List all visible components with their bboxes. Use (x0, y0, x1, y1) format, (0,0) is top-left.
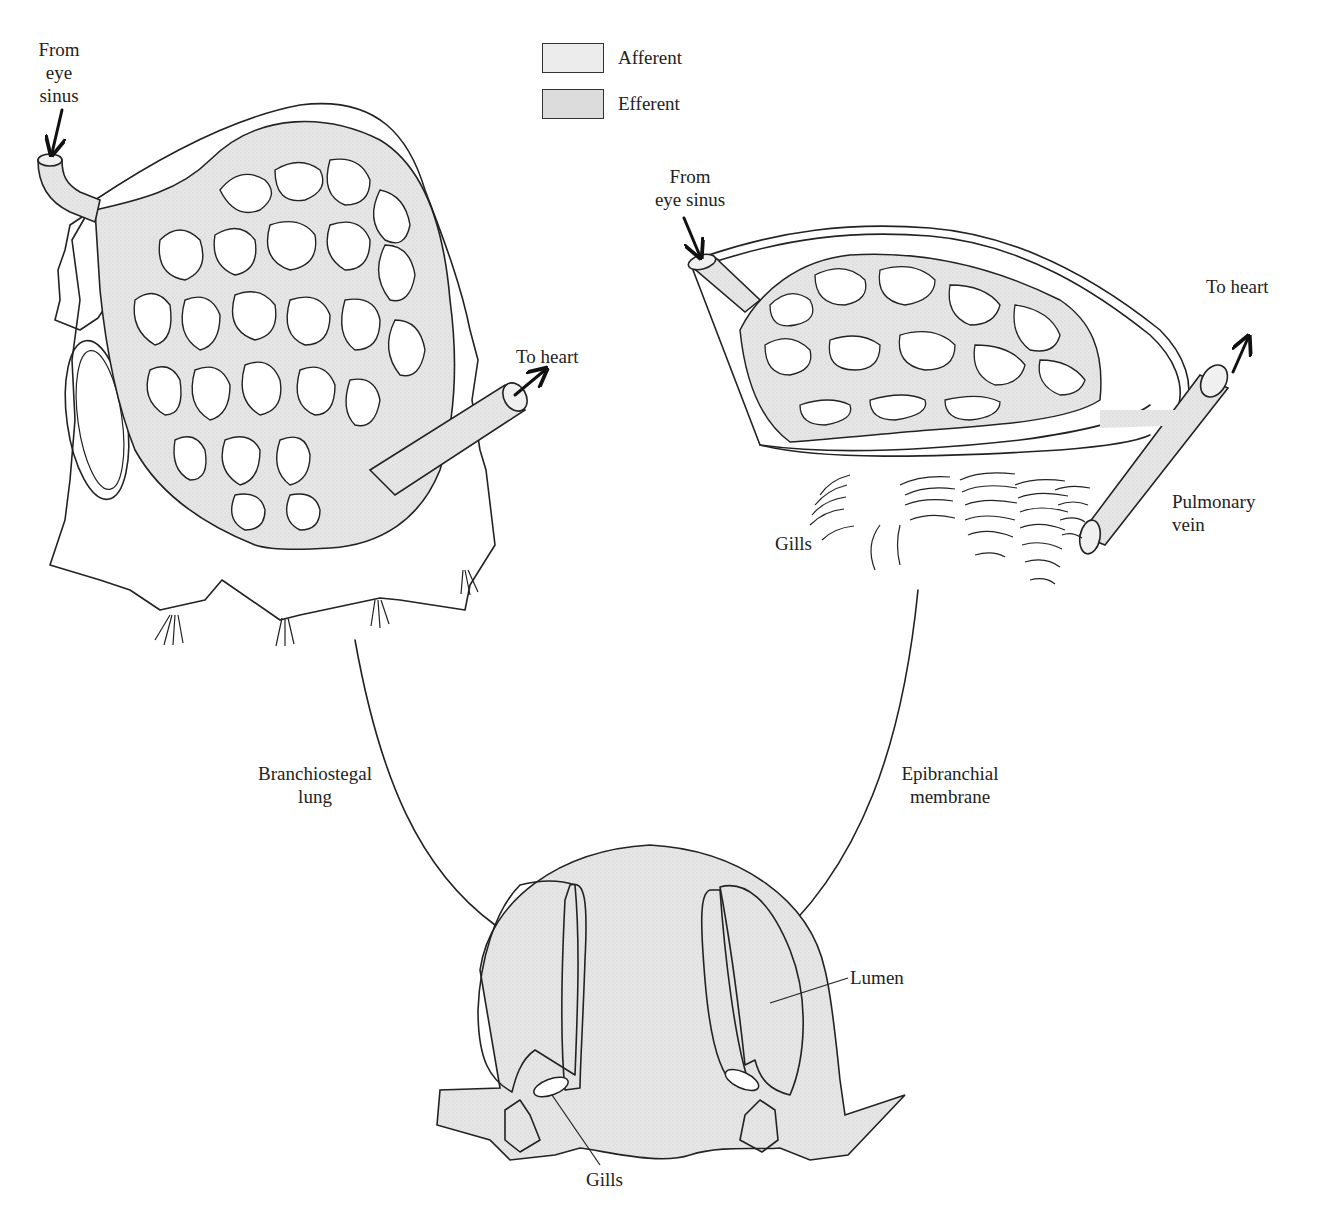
label-branchiostegal-lung: Branchiostegal lung (240, 762, 390, 808)
label-line: vein (1172, 513, 1255, 536)
legend-label-efferent: Efferent (618, 93, 680, 115)
label-pulmonary-vein: Pulmonary vein (1172, 490, 1255, 536)
label-from-eye-sinus-right: From eye sinus (640, 165, 740, 211)
fringe-left (155, 570, 478, 646)
legend-label-afferent: Afferent (618, 47, 682, 69)
arrow-from-eye-sinus-right (684, 218, 700, 256)
epibranchial-membrane-drawing (687, 226, 1233, 584)
label-line: Epibranchial (875, 762, 1025, 785)
label-line: membrane (875, 785, 1025, 808)
cross-section-drawing (437, 845, 905, 1165)
label-line: Branchiostegal (240, 762, 390, 785)
afferent-vessel-left (38, 160, 100, 222)
label-line: Pulmonary (1172, 490, 1255, 513)
gill-lamellae-right (810, 473, 1090, 584)
legend-item-afferent: Afferent (542, 43, 682, 73)
afferent-swatch (542, 43, 604, 73)
label-epibranchial-membrane: Epibranchial membrane (875, 762, 1025, 808)
body-cross-section (437, 845, 905, 1160)
label-line: From (24, 38, 94, 61)
arrow-from-eye-sinus-left (52, 110, 62, 153)
efferent-swatch (542, 89, 604, 119)
label-gills-right: Gills (775, 532, 812, 555)
label-from-eye-sinus-left: From eye sinus (24, 38, 94, 107)
label-to-heart-left: To heart (516, 345, 579, 368)
label-line: eye (24, 61, 94, 84)
legend-item-efferent: Efferent (542, 89, 680, 119)
arrow-to-heart-right (1233, 338, 1248, 372)
branchiostegal-lung-drawing (38, 104, 532, 646)
label-line: eye sinus (640, 188, 740, 211)
vessel-opening (38, 154, 62, 166)
label-lumen: Lumen (850, 966, 904, 989)
arrow-to-heart-left (515, 370, 545, 395)
label-to-heart-right: To heart (1206, 275, 1269, 298)
label-line: From (640, 165, 740, 188)
label-line: lung (240, 785, 390, 808)
label-line: sinus (24, 84, 94, 107)
label-gills-cross-section: Gills (586, 1168, 623, 1191)
